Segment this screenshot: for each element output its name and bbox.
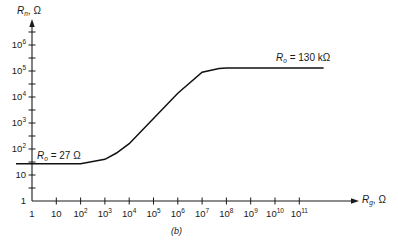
y-tick-label: 104 — [0, 92, 26, 102]
tick-base: 10 — [12, 39, 23, 50]
tick-base: 10 — [12, 91, 23, 102]
tick-base: 10 — [12, 117, 23, 128]
tick-base: 10 — [51, 208, 62, 219]
tick-exponent: 4 — [22, 90, 26, 97]
annotation-value: = 27 Ω — [48, 150, 81, 161]
tick-exponent: 3 — [22, 116, 26, 123]
tick-exponent: 7 — [206, 207, 210, 214]
tick-exponent: 3 — [108, 207, 112, 214]
x-tick-label: 105 — [142, 209, 166, 219]
tick-base: 10 — [12, 65, 23, 76]
tick-exponent: 10 — [277, 207, 284, 214]
x-tick-label: 1010 — [263, 209, 287, 219]
x-tick-label: 103 — [93, 209, 117, 219]
figure-caption: (b) — [171, 227, 182, 236]
annotation-low-plateau: Ro = 27 Ω — [37, 151, 81, 161]
y-tick-label: 105 — [0, 66, 26, 76]
x-tick-label: 109 — [239, 209, 263, 219]
tick-base: 10 — [15, 169, 26, 180]
tick-exponent: 2 — [22, 142, 26, 149]
tick-base: 10 — [195, 208, 206, 219]
x-tick-label: 108 — [214, 209, 238, 219]
tick-base: 10 — [12, 143, 23, 154]
y-tick-label: 103 — [0, 118, 26, 128]
tick-exponent: 2 — [84, 207, 88, 214]
y-tick-label: 102 — [0, 144, 26, 154]
tick-exponent: 5 — [157, 207, 161, 214]
tick-base: 10 — [122, 208, 133, 219]
tick-base: 10 — [73, 208, 84, 219]
x-axis-title: Rg, Ω — [362, 195, 386, 205]
tick-base: 10 — [219, 208, 230, 219]
tick-base: 10 — [146, 208, 157, 219]
tick-exponent: 4 — [133, 207, 137, 214]
x-tick-label: 1 — [20, 209, 44, 219]
x-tick-label: 107 — [190, 209, 214, 219]
x-tick-label: 1011 — [287, 209, 311, 219]
tick-exponent: 11 — [301, 207, 308, 214]
y-tick-label: 106 — [0, 40, 26, 50]
tick-base: 10 — [266, 208, 277, 219]
x-axis-unit: , Ω — [373, 194, 386, 205]
tick-base: 1 — [29, 208, 34, 219]
annotation-high-plateau: Ro = 130 kΩ — [276, 53, 330, 63]
y-axis-unit: , Ω — [28, 5, 41, 16]
annotation-value: = 130 kΩ — [287, 52, 330, 63]
y-axis-title: Rn, Ω — [17, 6, 41, 16]
tick-base: 1 — [21, 195, 26, 206]
y-tick-label: 10 — [0, 170, 26, 180]
tick-exponent: 6 — [22, 38, 26, 45]
tick-exponent: 5 — [22, 64, 26, 71]
y-axis — [29, 19, 36, 201]
tick-base: 10 — [244, 208, 255, 219]
tick-exponent: 9 — [254, 207, 258, 214]
x-tick-label: 106 — [166, 209, 190, 219]
tick-exponent: 8 — [230, 207, 234, 214]
x-axis-arrow-icon — [351, 198, 359, 203]
tick-exponent: 6 — [181, 207, 185, 214]
tick-base: 10 — [98, 208, 109, 219]
y-tick-label: 1 — [0, 196, 26, 206]
tick-base: 10 — [171, 208, 182, 219]
y-axis-arrow-icon — [29, 19, 34, 27]
x-tick-label: 102 — [69, 209, 93, 219]
x-tick-label: 104 — [117, 209, 141, 219]
x-tick-label: 10 — [44, 209, 68, 219]
x-axis — [32, 198, 359, 205]
tick-base: 10 — [291, 208, 302, 219]
